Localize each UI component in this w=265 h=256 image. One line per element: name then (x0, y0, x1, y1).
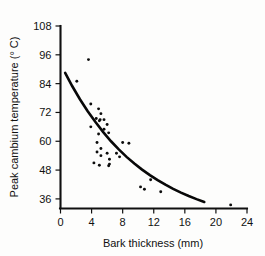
scatter-plot: 364860728496108 04812162024 Bark thickne… (0, 0, 265, 256)
x-tick-label: 0 (57, 216, 63, 228)
data-point (99, 112, 102, 115)
data-point (115, 152, 118, 155)
x-tick-label: 8 (120, 216, 126, 228)
y-tick-label: 36 (39, 193, 51, 205)
y-tick-label: 72 (39, 106, 51, 118)
data-points (75, 58, 232, 206)
y-tick-label: 108 (33, 20, 51, 32)
data-point (106, 123, 109, 126)
x-tick-label: 24 (241, 216, 253, 228)
data-point (98, 119, 101, 122)
data-point (75, 80, 78, 83)
data-point (99, 147, 102, 150)
fit-curve (65, 73, 204, 202)
data-point (92, 161, 95, 164)
data-point (89, 125, 92, 128)
y-tick-label: 48 (39, 164, 51, 176)
data-point (107, 164, 110, 167)
data-point (159, 190, 162, 193)
data-point (96, 151, 99, 154)
data-point (118, 155, 121, 158)
x-tick-label: 16 (179, 216, 191, 228)
x-tick-label: 20 (210, 216, 222, 228)
y-axis-ticks: 364860728496108 (33, 20, 60, 205)
data-point (89, 103, 92, 106)
data-point (149, 178, 152, 181)
data-point (99, 154, 102, 157)
data-point (98, 164, 101, 167)
figure-container: 364860728496108 04812162024 Bark thickne… (0, 0, 265, 256)
y-tick-label: 96 (39, 49, 51, 61)
x-axis-label: Bark thickness (mm) (103, 237, 203, 249)
data-point (97, 107, 100, 110)
data-point (127, 142, 130, 145)
data-point (139, 185, 142, 188)
data-point (95, 117, 98, 120)
data-point (103, 118, 106, 121)
data-point (143, 188, 146, 191)
data-point (87, 58, 90, 61)
x-tick-label: 4 (89, 216, 95, 228)
data-point (97, 133, 100, 136)
data-point (108, 158, 111, 161)
data-point (106, 152, 109, 155)
data-point (229, 203, 232, 206)
data-point (96, 141, 99, 144)
data-point (107, 131, 110, 134)
y-tick-label: 84 (39, 78, 51, 90)
data-point (121, 141, 124, 144)
x-tick-label: 12 (148, 216, 160, 228)
y-tick-label: 60 (39, 135, 51, 147)
x-axis-ticks: 04812162024 (57, 209, 253, 228)
y-axis-label: Peak cambium temperature (° C) (8, 37, 20, 198)
